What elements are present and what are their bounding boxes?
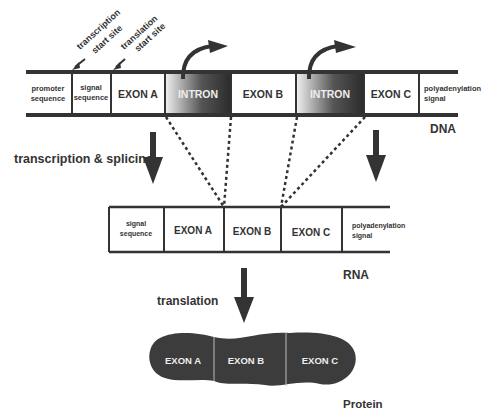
- protein-exon-a-label: EXON A: [165, 355, 201, 366]
- dna-intron-1-label: INTRON: [178, 88, 218, 100]
- translation-start-site-marker: translation start site: [113, 13, 167, 70]
- dna-promoter-label: promoter: [32, 84, 65, 93]
- dna-exon-c-label: EXON C: [371, 88, 412, 100]
- rna-label: RNA: [343, 268, 369, 282]
- gene-expression-diagram: promoter sequence signal sequence EXON A…: [0, 0, 484, 418]
- transcription-splicing-label: transcription & splicing: [14, 152, 154, 166]
- dna-polya-label-2: signal: [424, 94, 446, 103]
- rna-signal-label-2: sequence: [120, 230, 152, 238]
- dna-exon-b-label: EXON B: [243, 88, 284, 100]
- rna-exon-b-label: EXON B: [233, 226, 271, 237]
- rna-polya-label-2: signal: [352, 232, 372, 240]
- rna-polya-label: polyadenylation: [352, 222, 405, 230]
- protein-exon-c-label: EXON C: [302, 355, 339, 366]
- dna-polya-label: polyadenylation: [424, 84, 482, 93]
- down-arrow-translation: [234, 268, 254, 323]
- protein-exon-b-label: EXON B: [228, 355, 265, 366]
- dna-label: DNA: [430, 122, 456, 136]
- protein-label: Protein: [343, 398, 383, 410]
- dna-exon-a-label: EXON A: [118, 88, 158, 100]
- rna-signal-label: signal: [126, 220, 146, 228]
- dna-intron-2-label: INTRON: [310, 88, 350, 100]
- dna-promoter-label-2: sequence: [31, 94, 66, 103]
- dna-signal-label-2: sequence: [74, 93, 109, 102]
- splice-lines: [166, 117, 365, 207]
- down-arrow-transcription-right: [366, 130, 386, 182]
- transcription-start-site-marker: transcription start site: [72, 7, 124, 70]
- translation-label: translation: [157, 294, 218, 308]
- rna-exon-c-label: EXON C: [292, 227, 330, 238]
- rna-exon-a-label: EXON A: [174, 225, 212, 236]
- dna-signal-label: signal: [80, 83, 102, 92]
